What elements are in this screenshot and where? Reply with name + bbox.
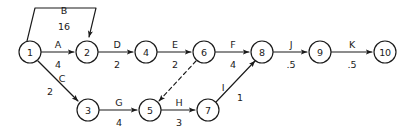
node-10-label: 10 (379, 47, 391, 58)
activity-label-i: I (222, 82, 225, 93)
activity-duration-g: 4 (116, 117, 122, 128)
node-9-label: 9 (317, 47, 323, 58)
node-7[interactable]: 7 (197, 99, 219, 121)
activity-label-a: A (55, 39, 62, 50)
activity-duration-e: 2 (172, 59, 178, 70)
node-2[interactable]: 2 (76, 41, 98, 63)
activity-duration-c: 2 (47, 86, 53, 97)
activity-duration-a: 4 (55, 59, 61, 70)
node-1[interactable]: 1 (19, 41, 41, 63)
activity-label-f: F (230, 39, 235, 50)
activity-duration-k: .5 (348, 59, 357, 70)
node-3-label: 3 (85, 105, 91, 116)
node-6-label: 6 (201, 47, 207, 58)
node-8-label: 8 (259, 47, 265, 58)
activity-duration-h: 3 (176, 117, 182, 128)
node-4-label: 4 (143, 47, 149, 58)
activity-duration-d: 2 (114, 59, 120, 70)
activity-label-j: J (289, 39, 293, 50)
activity-label-e: E (172, 39, 178, 50)
node-4[interactable]: 4 (135, 41, 157, 63)
node-9[interactable]: 9 (309, 41, 331, 63)
activity-duration-j: .5 (287, 59, 296, 70)
activity-duration-f: 4 (230, 59, 236, 70)
activity-label-h: H (175, 97, 182, 108)
node-10[interactable]: 10 (374, 41, 396, 63)
activity-label-g: G (115, 97, 122, 108)
node-8[interactable]: 8 (251, 41, 273, 63)
node-7-label: 7 (205, 105, 211, 116)
network-diagram: A 4 B 16 C 2 D 2 E 2 F 4 G 4 H 3 I 1 J .… (0, 0, 407, 137)
activity-duration-b: 16 (58, 21, 70, 32)
node-3[interactable]: 3 (77, 99, 99, 121)
activity-duration-i: 1 (237, 92, 243, 103)
node-5[interactable]: 5 (139, 99, 161, 121)
network-diagram-canvas: A 4 B 16 C 2 D 2 E 2 F 4 G 4 H 3 I 1 J .… (0, 0, 407, 137)
activity-label-b: B (61, 5, 67, 16)
activity-label-d: D (113, 39, 120, 50)
activity-label-k: K (349, 39, 356, 50)
node-6[interactable]: 6 (193, 41, 215, 63)
node-5-label: 5 (147, 105, 153, 116)
node-2-label: 2 (84, 47, 90, 58)
activity-label-c: C (59, 73, 66, 84)
node-1-label: 1 (27, 47, 33, 58)
